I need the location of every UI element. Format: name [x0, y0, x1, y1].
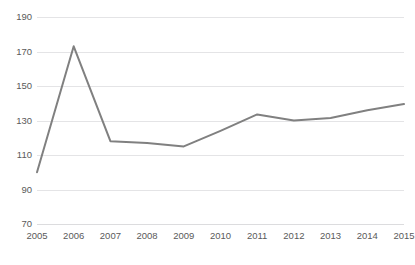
series-polyline	[37, 46, 404, 172]
x-axis-tick-label: 2009	[164, 231, 204, 241]
x-axis-tick-label: 2010	[201, 231, 241, 241]
x-axis-tick-label: 2014	[347, 231, 387, 241]
y-axis-tick-label: 130	[0, 116, 32, 126]
chart-title-clipped	[0, 0, 415, 2]
x-axis-tick-label: 2013	[311, 231, 351, 241]
x-axis-tick-label: 2015	[384, 231, 415, 241]
gridline	[37, 224, 404, 225]
x-axis-tick-label: 2011	[237, 231, 277, 241]
y-axis-tick-label: 90	[0, 185, 32, 195]
plot-area	[37, 17, 404, 224]
y-axis-tick-label: 110	[0, 150, 32, 160]
line-chart: 7090110130150170190 20052006200720082009…	[0, 0, 415, 265]
x-axis-tick-label: 2007	[90, 231, 130, 241]
y-axis-tick-label: 170	[0, 47, 32, 57]
y-axis-tick-label: 70	[0, 219, 32, 229]
x-axis-tick-label: 2005	[17, 231, 57, 241]
x-axis-tick-label: 2008	[127, 231, 167, 241]
y-axis-tick-label: 190	[0, 12, 32, 22]
x-axis-tick-label: 2012	[274, 231, 314, 241]
series-line	[37, 17, 404, 224]
x-axis-tick-label: 2006	[54, 231, 94, 241]
y-axis-tick-label: 150	[0, 81, 32, 91]
